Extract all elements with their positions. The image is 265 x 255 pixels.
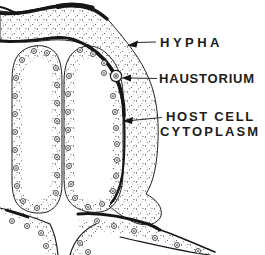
haustorium-leader-line bbox=[129, 78, 157, 79]
host-cell-label-line1: HOST CELL bbox=[166, 109, 255, 124]
annotation-hypha: HYPHA bbox=[127, 35, 223, 50]
host-cell-label-line2: CYTOPLASM bbox=[160, 124, 260, 139]
hypha-label: HYPHA bbox=[160, 35, 223, 50]
diagram-svg: HYPHA HAUSTORIUM HOST CELL CYTOPLASM bbox=[0, 0, 265, 255]
haustorium-body bbox=[110, 70, 121, 81]
host-cell-left bbox=[12, 46, 62, 214]
hypha-leader-line bbox=[136, 42, 156, 43]
haustorium-label: HAUSTORIUM bbox=[159, 71, 255, 86]
figure-canvas: HYPHA HAUSTORIUM HOST CELL CYTOPLASM bbox=[0, 0, 265, 255]
